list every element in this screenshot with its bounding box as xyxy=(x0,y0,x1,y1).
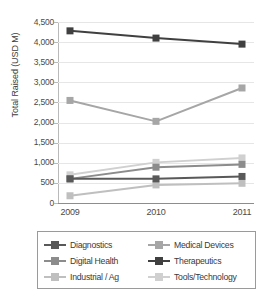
series-marker xyxy=(239,41,246,48)
legend-label: Industrial / Ag xyxy=(70,272,119,282)
y-axis-tick-label: 1,000 xyxy=(0,157,54,167)
legend-swatch-icon xyxy=(44,256,66,266)
legend-label: Tools/Technology xyxy=(174,272,237,282)
series-marker xyxy=(239,154,246,161)
series-marker xyxy=(239,180,246,187)
legend-label: Therapeutics xyxy=(174,256,221,266)
legend-item[interactable]: Diagnostics xyxy=(44,240,148,250)
y-axis-tick-label: 500 xyxy=(0,177,54,187)
legend-item[interactable]: Medical Devices xyxy=(148,240,257,250)
y-axis-tick-label: 3,500 xyxy=(0,57,54,67)
legend-item[interactable]: Therapeutics xyxy=(148,256,257,266)
y-axis-tick-label: 3,000 xyxy=(0,77,54,87)
legend-swatch-icon xyxy=(148,272,170,282)
series-marker xyxy=(153,35,160,42)
y-axis-tick-label: 1,500 xyxy=(0,137,54,147)
series-marker xyxy=(67,97,74,104)
legend-label: Digital Health xyxy=(70,256,118,266)
y-axis-tick-label: 2,500 xyxy=(0,97,54,107)
legend-item[interactable]: Industrial / Ag xyxy=(44,272,148,282)
series-marker xyxy=(67,175,74,182)
legend-grid: DiagnosticsMedical DevicesDigital Health… xyxy=(44,237,251,285)
series-lines xyxy=(58,22,254,203)
legend-item[interactable]: Tools/Technology xyxy=(148,272,257,282)
series-marker xyxy=(239,173,246,180)
y-axis-tick-label: 4,500 xyxy=(0,17,54,27)
legend-swatch-icon xyxy=(148,256,170,266)
chart-figure: Total Raised (USD M) 4,5004,0003,5003,00… xyxy=(0,0,265,297)
x-axis-tick-label: 2009 xyxy=(45,207,95,217)
legend-label: Medical Devices xyxy=(174,240,234,250)
legend-swatch-icon xyxy=(44,272,66,282)
legend: DiagnosticsMedical DevicesDigital Health… xyxy=(37,231,256,289)
y-axis-tick-label: 2,000 xyxy=(0,117,54,127)
y-axis-tick-mark xyxy=(54,203,58,204)
plot-area xyxy=(58,22,254,203)
series-marker xyxy=(67,27,74,34)
x-axis-tick-labels: 200920102011 xyxy=(58,207,254,221)
legend-item[interactable]: Digital Health xyxy=(44,256,148,266)
legend-swatch-icon xyxy=(44,240,66,250)
series-marker xyxy=(153,118,160,125)
series-line xyxy=(70,88,242,121)
legend-label: Diagnostics xyxy=(70,240,112,250)
x-axis-tick-label: 2011 xyxy=(217,207,265,217)
gridline xyxy=(58,203,254,204)
x-axis-tick-label: 2010 xyxy=(131,207,181,217)
series-marker xyxy=(153,164,160,171)
series-marker xyxy=(239,161,246,168)
y-axis-tick-label: 4,000 xyxy=(0,37,54,47)
series-marker xyxy=(239,84,246,91)
series-marker xyxy=(153,175,160,182)
series-marker xyxy=(67,192,74,199)
series-marker xyxy=(153,181,160,188)
y-axis-tick-label: 0 xyxy=(0,198,54,208)
legend-swatch-icon xyxy=(148,240,170,250)
